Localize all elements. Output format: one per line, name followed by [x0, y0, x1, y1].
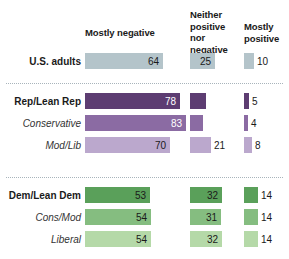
bar-value-neither: 32 — [207, 234, 218, 245]
bar-value-mostly-positive: 4 — [251, 118, 257, 129]
bar-neither: 31 — [190, 209, 221, 225]
bar-value-neither: 13 — [206, 118, 217, 129]
chart-row: Cons/Mod543114 — [0, 208, 289, 226]
bar-value-mostly-positive: 14 — [261, 190, 272, 201]
bar-mostly-negative: 70 — [85, 137, 170, 153]
row-label: Conservative — [23, 118, 81, 129]
opinion-bar-chart: Mostly negative Neither positive nor neg… — [0, 0, 289, 259]
bar-mostly-positive: 4 — [244, 115, 248, 131]
bar-neither: 25 — [190, 53, 215, 69]
bar-value-neither: 25 — [200, 56, 211, 67]
row-label: U.S. adults — [29, 56, 81, 67]
column-header-mostly-negative-label: Mostly negative — [85, 27, 155, 38]
bar-value-mostly-negative: 70 — [155, 140, 166, 151]
row-label: Mod/Lib — [45, 140, 81, 151]
bar-value-mostly-negative: 64 — [148, 56, 159, 67]
bar-neither: 32 — [190, 231, 222, 247]
bar-value-mostly-negative: 78 — [165, 96, 176, 107]
column-header-mostly-positive: Mostly positive — [244, 21, 288, 44]
row-group-separator — [6, 177, 283, 178]
chart-row: Rep/Lean Rep78165 — [0, 92, 289, 110]
column-header-neither: Neither positive nor negative — [190, 9, 242, 55]
bar-value-neither: 31 — [206, 212, 217, 223]
column-header-neither-line1: Neither — [190, 9, 242, 21]
row-label: Liberal — [51, 234, 81, 245]
chart-row: Dem/Lean Dem533214 — [0, 186, 289, 204]
chart-row: Liberal543214 — [0, 230, 289, 248]
column-header-neither-line2: positive nor — [190, 21, 242, 44]
chart-row: U.S. adults642510 — [0, 52, 289, 70]
bar-value-mostly-negative: 83 — [171, 118, 182, 129]
bar-value-mostly-positive: 14 — [261, 212, 272, 223]
bar-mostly-negative: 54 — [85, 209, 151, 225]
bar-mostly-positive: 14 — [244, 187, 258, 203]
bar-value-mostly-negative: 54 — [136, 212, 147, 223]
bar-mostly-positive: 8 — [244, 137, 252, 153]
bar-mostly-positive: 10 — [244, 53, 254, 69]
column-header-mostly-negative: Mostly negative — [85, 27, 155, 39]
bar-mostly-negative: 64 — [85, 53, 163, 69]
bar-value-mostly-negative: 53 — [135, 190, 146, 201]
column-header-mostly-positive-line2: positive — [244, 33, 288, 45]
bar-value-neither: 16 — [209, 96, 220, 107]
bar-neither: 16 — [190, 93, 206, 109]
bar-mostly-negative: 54 — [85, 231, 151, 247]
bar-mostly-negative: 53 — [85, 187, 150, 203]
bar-mostly-negative: 83 — [85, 115, 186, 131]
row-label: Rep/Lean Rep — [14, 96, 81, 107]
bar-mostly-positive: 14 — [244, 209, 258, 225]
bar-neither: 21 — [190, 137, 211, 153]
bar-neither: 13 — [190, 115, 203, 131]
bar-value-neither: 32 — [207, 190, 218, 201]
bar-value-mostly-positive: 8 — [255, 140, 261, 151]
chart-row: Mod/Lib70218 — [0, 136, 289, 154]
column-header-mostly-positive-line1: Mostly — [244, 21, 288, 33]
row-group-separator — [6, 83, 283, 84]
bar-value-neither: 21 — [214, 140, 225, 151]
chart-row: Conservative83134 — [0, 114, 289, 132]
bar-mostly-positive: 14 — [244, 231, 258, 247]
bar-value-mostly-positive: 5 — [252, 96, 258, 107]
row-label: Cons/Mod — [35, 212, 81, 223]
bar-mostly-negative: 78 — [85, 93, 180, 109]
bar-value-mostly-negative: 54 — [136, 234, 147, 245]
bar-value-mostly-positive: 10 — [257, 56, 268, 67]
bar-value-mostly-positive: 14 — [261, 234, 272, 245]
bar-mostly-positive: 5 — [244, 93, 249, 109]
bar-neither: 32 — [190, 187, 222, 203]
row-label: Dem/Lean Dem — [9, 190, 81, 201]
